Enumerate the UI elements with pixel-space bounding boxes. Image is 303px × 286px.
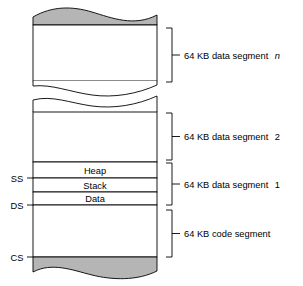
segment-label-data-n: 64 KB data segment n bbox=[184, 51, 280, 61]
segment-label-data-1-suffix: 1 bbox=[275, 180, 280, 190]
segment-label-data-2-prefix: 64 KB data segment bbox=[184, 132, 269, 142]
code-segment-body-group bbox=[33, 205, 157, 257]
memory-segment-diagram: Heap Stack Data SS DS CS 64 KB data segm… bbox=[0, 0, 303, 286]
segment-n-body bbox=[33, 25, 157, 81]
segment-label-data-1: 64 KB data segment 1 bbox=[184, 180, 280, 190]
data-row-label: Data bbox=[85, 194, 105, 204]
break-upper-wave bbox=[33, 81, 157, 96]
register-label-ds: DS bbox=[11, 201, 24, 211]
bottom-gray-band bbox=[33, 257, 157, 279]
segment-1-rows-group: Heap Stack Data bbox=[33, 162, 157, 205]
bracket-code-segment bbox=[166, 210, 172, 257]
segment-label-data-2: 64 KB data segment 2 bbox=[184, 132, 280, 142]
break-lower-wave bbox=[33, 96, 157, 112]
segment-label-data-n-suffix: n bbox=[275, 51, 280, 61]
bracket-group-data-segment-n: 64 KB data segment n bbox=[166, 28, 280, 82]
segment-label-data-1-prefix: 64 KB data segment bbox=[184, 180, 269, 190]
segment-label-code-prefix: 64 KB code segment bbox=[184, 229, 271, 239]
bracket-group-data-segment-2: 64 KB data segment 2 bbox=[166, 113, 280, 160]
segment-2-body-group bbox=[33, 112, 157, 162]
stack-row-label: Stack bbox=[83, 181, 107, 191]
bottom-torn-edge-group bbox=[33, 257, 157, 279]
segment-2-body bbox=[33, 112, 157, 162]
segment-label-data-2-suffix: 2 bbox=[275, 132, 280, 142]
bracket-group-code-segment: 64 KB code segment bbox=[166, 210, 271, 257]
top-torn-edge-group bbox=[33, 8, 157, 25]
bracket-data-segment-2 bbox=[166, 113, 172, 160]
top-gray-band bbox=[33, 8, 157, 25]
bracket-group-data-segment-1: 64 KB data segment 1 bbox=[166, 163, 280, 205]
code-segment-body bbox=[33, 205, 157, 257]
segment-label-data-n-prefix: 64 KB data segment bbox=[184, 51, 269, 61]
register-label-ss: SS bbox=[11, 174, 23, 184]
segment-n-body-group bbox=[33, 25, 157, 81]
bracket-data-segment-n bbox=[166, 28, 172, 82]
register-label-cs: CS bbox=[11, 253, 24, 263]
bracket-data-segment-1 bbox=[166, 163, 172, 205]
register-labels-group: SS DS CS bbox=[11, 174, 33, 263]
diagram-break-group bbox=[33, 81, 157, 112]
segment-label-code: 64 KB code segment bbox=[184, 229, 271, 239]
heap-row-label: Heap bbox=[84, 166, 106, 176]
